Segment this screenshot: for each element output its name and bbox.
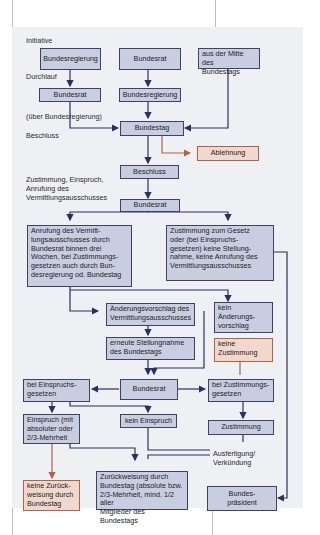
label-ueber-bundesregierung: (über Bundesregierung) [26,112,102,121]
box-bundesrat-durchlauf: Bundesrat [39,88,101,102]
box-bei-zustimmungsgesetzen: bei Zustimmungs- gesetzen [208,379,274,402]
box-zustimmung: Zustimmung [208,420,274,435]
label-beschluss: Beschluss [26,131,59,140]
box-kein-aenderungsvorschlag: kein Änderungs- vorschlag [214,302,273,333]
box-einspruch: Einspruch (mit absoluter oder 2/3-Mehrhe… [23,414,80,444]
box-bundespraesident: Bundes- präsident [207,486,277,511]
box-bundesregierung-initiative: Bundesregierung [40,48,101,70]
label-initiative: Initiative [26,36,52,45]
box-mitte-bundestag: aus der Mitte des Bundestags [198,48,260,69]
box-zurueckweisung: Zurückweisung durch Bundestag (absolute … [96,471,188,510]
box-bundestag: Bundestag [120,121,184,136]
box-beschluss: Beschluss [120,165,179,179]
label-ausfertigung: Ausfertigung/ Verkündung [213,449,255,467]
box-anrufung-vermittlungsausschuss: Anrufung des Vermitt- lungsausschusses d… [27,225,132,287]
box-bundesrat-initiative: Bundesrat [119,48,181,70]
box-bundesrat-2: Bundesrat [120,379,178,400]
box-aenderungsvorschlag: Änderungsvorschlag des Vermittlungsaussc… [106,303,195,326]
box-keine-zustimmung: keine Zustimmung [214,338,273,362]
box-bei-einspruchsgesetzen: bei Einspruchs- gesetzen [23,379,90,402]
label-zustimmung-einspruch: Zustimmung, Einspruch, Anrufung des Verm… [26,175,107,202]
box-bundesrat-1: Bundesrat [120,199,180,212]
box-keine-zurueckweisung: keine Zurück- weisung durch Bundestag [23,480,80,511]
box-erneute-stellungnahme: erneute Stellungnahme des Bundestags [106,337,195,360]
box-kein-einspruch: kein Einspruch [120,414,177,428]
box-ablehnung: Ablehnung [197,146,259,161]
box-zustimmung-zum-gesetz: Zustimmung zum Gesetz oder (bei Einspruc… [166,225,274,281]
label-durchlauf: Durchlauf [26,72,57,81]
box-bundesregierung-durchlauf: Bundesregierung [119,88,181,102]
